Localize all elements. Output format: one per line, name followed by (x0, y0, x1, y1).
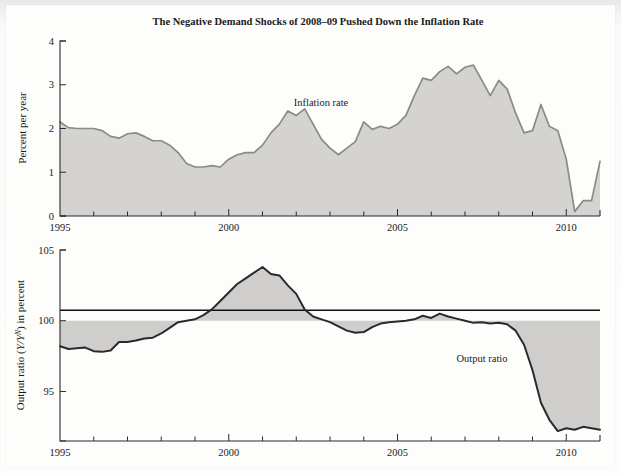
y-tick-label: 105 (38, 245, 54, 256)
output-y-tick-labels: 95100105 (38, 245, 54, 397)
output-area-group (60, 267, 600, 431)
y-tick-label: 1 (49, 167, 54, 178)
output-y-axis-label: Output ratio (Y/YN) in percent (14, 280, 28, 410)
panel-output-ratio: 95100105 1995200020052010 Output ratio (… (14, 245, 601, 458)
y-tick-label: 2 (49, 123, 54, 134)
panel-inflation-rate: 01234 1995200020052010 Percent per year … (16, 36, 600, 233)
y-tick-label: 100 (38, 315, 54, 326)
x-tick-label: 2010 (556, 222, 577, 233)
output-y-label-pre: Output ratio ( (14, 350, 27, 410)
inflation-y-tick-labels: 01234 (49, 36, 55, 222)
figure-root: The Negative Demand Shocks of 2008–09 Pu… (0, 0, 621, 474)
x-tick-label: 2005 (387, 447, 408, 458)
y-tick-label: 0 (49, 211, 54, 222)
output-series-line (60, 267, 600, 431)
inflation-area-group (60, 65, 600, 216)
x-tick-label: 1995 (50, 222, 71, 233)
inflation-area-fill (60, 65, 600, 216)
page-title: The Negative Demand Shocks of 2008–09 Pu… (153, 16, 484, 27)
y-tick-label: 95 (44, 386, 55, 397)
x-tick-label: 2000 (218, 222, 239, 233)
y-tick-label: 4 (49, 36, 55, 47)
x-tick-label: 2000 (218, 447, 239, 458)
inflation-rate-annotation: Inflation rate (294, 97, 349, 108)
x-tick-label: 2005 (387, 222, 408, 233)
output-y-label-post: ) in percent (14, 280, 27, 330)
y-tick-label: 3 (49, 79, 54, 90)
page-background: The Negative Demand Shocks of 2008–09 Pu… (0, 0, 621, 474)
x-tick-label: 1995 (50, 447, 71, 458)
inflation-x-tick-labels: 1995200020052010 (50, 222, 577, 233)
x-tick-label: 2010 (556, 447, 577, 458)
output-area-fill (60, 267, 600, 431)
inflation-y-axis-label: Percent per year (16, 92, 28, 164)
output-ratio-annotation: Output ratio (456, 353, 507, 364)
output-x-tick-labels: 1995200020052010 (50, 447, 577, 458)
output-y-tick-marks (60, 250, 66, 391)
output-x-tick-marks (94, 434, 567, 441)
